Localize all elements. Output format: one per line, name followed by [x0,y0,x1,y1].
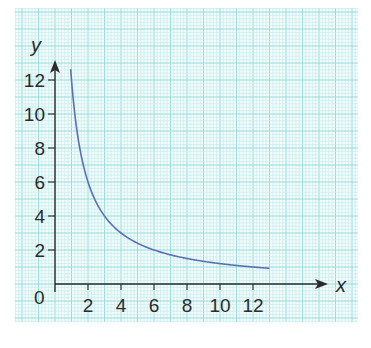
y-tick-label: 4 [34,206,45,227]
y-tick-label: 6 [34,172,45,193]
y-axis-label: y [29,34,42,56]
x-axis-label: x [335,274,347,296]
y-tick-label: 8 [34,138,45,159]
y-tick-label: 12 [24,70,45,91]
x-tick-label: 8 [182,295,193,316]
x-tick-label: 10 [209,295,230,316]
x-tick-label: 2 [83,295,94,316]
x-tick-label: 12 [242,295,263,316]
x-tick-label: 6 [149,295,160,316]
origin-label: 0 [34,287,45,308]
x-tick-label: 4 [116,295,127,316]
y-tick-label: 2 [34,240,45,261]
y-tick-label: 10 [24,104,45,125]
chart: 2468101224681012 x y 0 [0,0,371,348]
